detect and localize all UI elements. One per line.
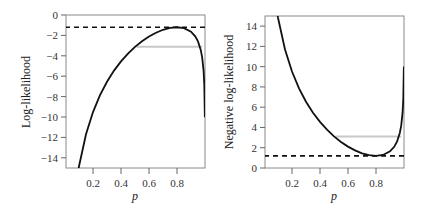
chart-figure: 0−2−4−6−8−10−12−14 0.20.40.60.8 Log-like…	[0, 0, 425, 214]
y-tick-label: −2	[46, 29, 58, 41]
left-y-axis-title: Log-likelihood	[19, 56, 33, 128]
left-y-axis-ticks: 0−2−4−6−8−10−12−14	[41, 9, 66, 164]
right-x-axis-ticks: 0.20.40.60.8	[285, 168, 383, 189]
left-log-likelihood-curve	[78, 27, 205, 174]
right-panel: 02468101214 0.20.40.60.8 Negative log-li…	[222, 9, 404, 203]
x-tick-label: 0.2	[86, 177, 100, 189]
right-plot-frame	[265, 16, 404, 168]
left-plot-frame	[66, 15, 205, 168]
y-tick-label: 14	[246, 20, 258, 32]
left-x-axis-ticks: 0.20.40.60.8	[86, 168, 184, 189]
y-tick-label: −8	[46, 91, 58, 103]
x-tick-label: 0.6	[142, 177, 156, 189]
x-tick-label: 0.6	[341, 177, 355, 189]
y-tick-label: 12	[246, 40, 257, 52]
y-tick-label: 0	[53, 9, 59, 21]
y-tick-label: 8	[252, 81, 258, 93]
right-negative-log-likelihood-curve	[277, 9, 404, 155]
y-tick-label: −14	[41, 152, 59, 164]
y-tick-label: 0	[252, 162, 258, 174]
x-tick-label: 0.4	[313, 177, 327, 189]
y-tick-label: −4	[46, 50, 58, 62]
x-tick-label: 0.8	[369, 177, 383, 189]
y-tick-label: 10	[246, 61, 258, 73]
y-tick-label: −10	[41, 111, 59, 123]
y-tick-label: −6	[46, 70, 58, 82]
y-tick-label: 4	[252, 121, 258, 133]
right-x-axis-title: p	[330, 189, 337, 203]
x-tick-label: 0.2	[285, 177, 299, 189]
y-tick-label: 2	[252, 142, 258, 154]
y-tick-label: 6	[252, 101, 258, 113]
left-x-axis-title: p	[131, 189, 138, 203]
x-tick-label: 0.8	[170, 177, 184, 189]
right-y-axis-ticks: 02468101214	[246, 20, 265, 174]
x-tick-label: 0.4	[114, 177, 128, 189]
left-panel: 0−2−4−6−8−10−12−14 0.20.40.60.8 Log-like…	[19, 9, 205, 203]
y-tick-label: −12	[41, 131, 58, 143]
right-y-axis-title: Negative log-likelihood	[222, 35, 236, 149]
